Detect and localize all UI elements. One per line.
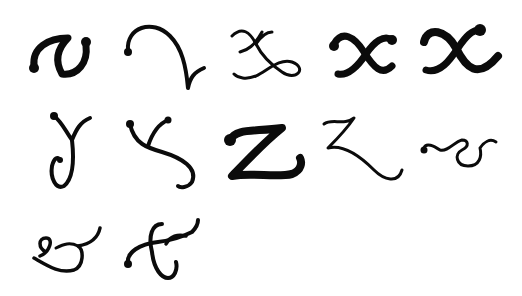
- glyph-y-looped: [40, 108, 100, 190]
- glyph-ampersand-flourished: [30, 222, 106, 278]
- glyph-v-bold: [28, 28, 108, 83]
- glyph-x-bold-swash: [418, 22, 502, 84]
- glyph-v-flourished: [122, 18, 212, 90]
- glyph-y-swash: [122, 108, 212, 190]
- glyph-x-bold: [328, 26, 404, 82]
- specimen-sheet: Calligraphic letterform specimens: [0, 0, 522, 296]
- glyph-x-looped: [226, 24, 306, 86]
- glyph-z-flourished: [318, 114, 408, 186]
- glyph-ampersand-crossed: [122, 214, 206, 284]
- glyph-ampersand-small: [418, 132, 500, 174]
- glyph-z-bold: [222, 122, 308, 184]
